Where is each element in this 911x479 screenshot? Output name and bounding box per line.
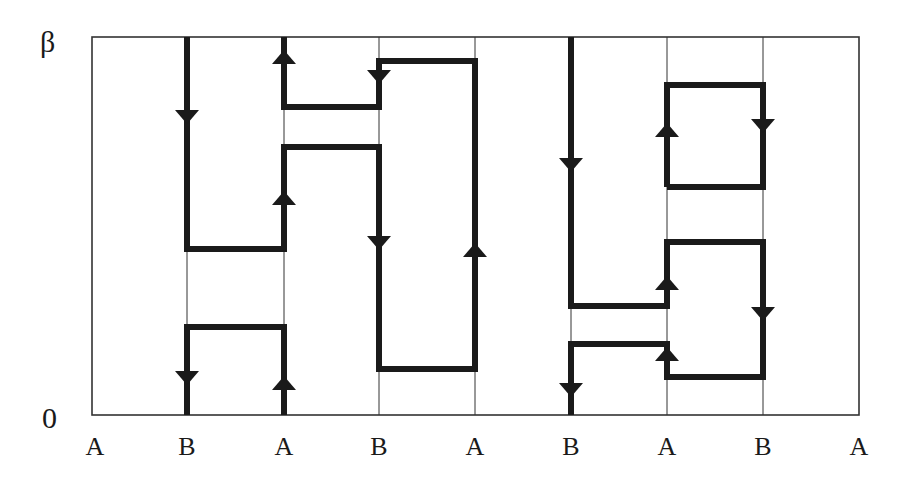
- arrow-up-icon: [272, 191, 296, 205]
- path-left-main: [187, 37, 475, 369]
- x-axis-labels: ABABABABA: [86, 432, 869, 461]
- arrow-down-icon: [175, 371, 199, 385]
- y-axis-top-label: β: [40, 25, 55, 58]
- arrow-down-icon: [751, 119, 775, 133]
- x-label-8: A: [850, 432, 869, 461]
- y-axis-bottom-label: 0: [42, 401, 57, 434]
- path-right-square: [667, 85, 763, 187]
- x-label-3: B: [370, 432, 387, 461]
- x-label-5: B: [562, 432, 579, 461]
- arrow-down-icon: [175, 110, 199, 124]
- arrow-down-icon: [367, 70, 391, 84]
- arrow-down-icon: [367, 236, 391, 250]
- arrow-up-icon: [655, 347, 679, 361]
- arrow-up-icon: [655, 276, 679, 290]
- arrow-up-icon: [272, 376, 296, 390]
- diagram-canvas: β 0 ABABABABA: [0, 0, 911, 479]
- x-label-0: A: [86, 432, 105, 461]
- arrow-up-icon: [272, 50, 296, 64]
- path-left-bottom: [187, 327, 284, 415]
- x-label-4: A: [466, 432, 485, 461]
- arrow-up-icon: [463, 243, 487, 257]
- x-label-1: B: [178, 432, 195, 461]
- x-label-2: A: [275, 432, 294, 461]
- arrow-down-icon: [559, 158, 583, 172]
- x-label-6: A: [658, 432, 677, 461]
- arrow-up-icon: [655, 123, 679, 137]
- arrow-down-icon: [751, 307, 775, 321]
- arrow-down-icon: [559, 383, 583, 397]
- x-label-7: B: [754, 432, 771, 461]
